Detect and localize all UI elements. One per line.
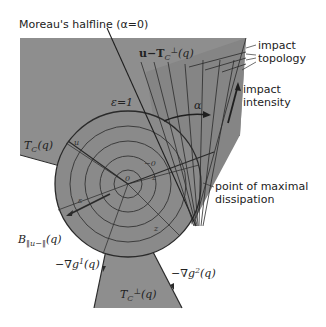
epsilon-label: ε=1 [111, 96, 133, 109]
impact-topology-label-1: impact [258, 39, 297, 52]
alpha-label: α [194, 99, 202, 112]
point-max-label-2: dissipation [215, 193, 274, 206]
z-label: z [151, 173, 157, 182]
grad2-label: −∇g2(q) [171, 266, 216, 280]
point-max-label-1: point of maximal [215, 180, 308, 193]
grad1-label: −∇g1(q) [55, 257, 100, 271]
diagram-svg: Moreau's halfline (α=0) u−TC⊥(q) impact … [0, 0, 326, 327]
normal-cone-region [94, 250, 182, 308]
minus-zero-label: −0 [144, 159, 156, 168]
u-label: u [74, 138, 79, 147]
impact-diagram: Moreau's halfline (α=0) u−TC⊥(q) impact … [0, 0, 326, 327]
ball-label: B‖u−‖(q) [17, 233, 62, 248]
impact-topology-label-2: topology [258, 52, 307, 65]
e-label: ε [78, 196, 82, 205]
impact-intensity-label-2: intensity [243, 96, 291, 109]
moreau-label: Moreau's halfline (α=0) [19, 18, 148, 31]
origin-label: 0 [125, 174, 130, 183]
z-label-lower: z [153, 224, 159, 233]
impact-intensity-label-1: impact [243, 83, 282, 96]
tangent-cone-label: TC(q) [24, 139, 53, 154]
